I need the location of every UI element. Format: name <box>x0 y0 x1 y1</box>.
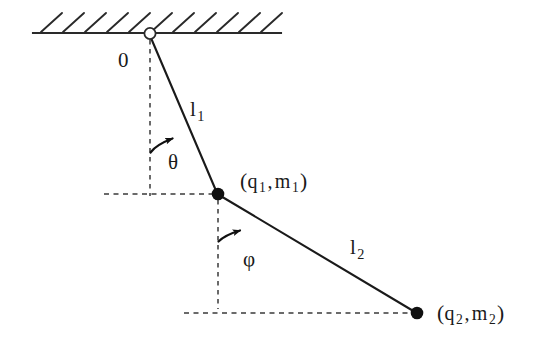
ceiling-support <box>33 13 282 33</box>
rod-2-length-symbol: l <box>350 235 356 259</box>
mass-1-label: (q1,m1) <box>240 171 307 195</box>
rod-2-length-label: l2 <box>350 237 365 261</box>
rod-1-length-label: l1 <box>190 99 205 123</box>
mass-2-m-subscript: 2 <box>488 312 498 327</box>
rod-1 <box>151 38 217 193</box>
rod-2-length-subscript: 2 <box>356 246 366 262</box>
mass-2-bob-icon <box>411 307 424 320</box>
mass-1-q-symbol: q <box>247 170 257 192</box>
angle-phi-label: φ <box>243 249 255 270</box>
mass-2-q-symbol: q <box>444 302 454 324</box>
angle-phi-arrow-icon <box>219 231 241 242</box>
mass-1-m-subscript: 1 <box>291 180 301 195</box>
rod-1-length-subscript: 1 <box>196 108 206 124</box>
mass-2-m-symbol: m <box>472 302 488 324</box>
rod-1-length-symbol: l <box>190 97 196 121</box>
angle-theta-label: θ <box>168 152 178 173</box>
mass-1-comma: , <box>267 170 275 192</box>
mass-1-m-symbol: m <box>275 170 291 192</box>
mass-2-comma: , <box>464 302 472 324</box>
origin-label: 0 <box>118 50 129 71</box>
mass-1-close-paren: ) <box>300 169 307 193</box>
double-pendulum-figure: 0 l1 θ (q1,m1) φ l2 (q2,m2) <box>0 0 548 343</box>
mass-2-q-subscript: 2 <box>455 312 465 327</box>
mass-2-close-paren: ) <box>497 301 504 325</box>
mass-1-q-subscript: 1 <box>258 180 268 195</box>
hatch-marks <box>41 13 282 32</box>
pivot-hinge-icon <box>144 28 155 39</box>
mass-1-bob-icon <box>212 188 225 201</box>
mass-2-label: (q2,m2) <box>437 303 504 327</box>
